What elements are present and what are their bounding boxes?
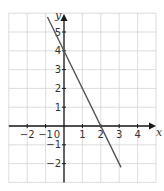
x-axis-label: x: [156, 126, 163, 139]
coordinate-plane-chart: −2−112340−2−112345xy: [0, 0, 164, 191]
x-tick-label: 1: [79, 129, 85, 140]
y-tick-label: 3: [55, 64, 61, 75]
y-tick-label: 4: [55, 45, 61, 56]
y-tick-label: −2: [46, 158, 61, 169]
y-tick-label: 1: [55, 102, 61, 113]
y-tick-label: −1: [46, 139, 61, 150]
y-tick-label: 2: [55, 83, 61, 94]
x-tick-label: −2: [20, 129, 35, 140]
x-tick-label: 3: [116, 129, 122, 140]
x-tick-label: 4: [134, 129, 140, 140]
y-tick-label: 5: [55, 27, 61, 38]
y-axis-arrow-icon: [61, 14, 68, 21]
grid-lines: [9, 13, 156, 182]
y-axis-label: y: [54, 9, 62, 22]
